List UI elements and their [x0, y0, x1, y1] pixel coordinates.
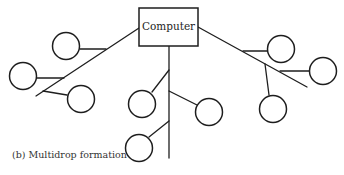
center-stub-1-line	[152, 70, 169, 92]
right-stub-g-line	[265, 64, 269, 95]
terminal-nodes	[10, 33, 337, 162]
terminal-right-1-circle	[268, 36, 295, 63]
terminal-right-3-circle	[260, 96, 287, 123]
computer-label: Computer	[139, 21, 198, 32]
terminal-left-1-circle	[53, 33, 80, 60]
terminal-center-3-circle	[126, 135, 153, 162]
left-stub-c-line	[43, 91, 67, 95]
terminal-center-1-circle	[129, 91, 156, 118]
center-stub-3-line	[149, 121, 169, 137]
terminal-right-2-circle	[310, 58, 337, 85]
left-bus-line	[36, 28, 139, 96]
terminal-left-2-circle	[10, 63, 37, 90]
terminal-left-3-circle	[68, 86, 95, 113]
figure-caption: (b) Multidrop formation	[12, 149, 127, 160]
center-stub-2-line	[169, 91, 197, 105]
terminal-center-2-circle	[196, 99, 223, 126]
